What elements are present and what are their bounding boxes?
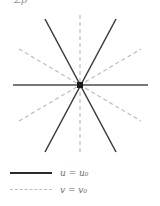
origin-marker <box>77 82 83 88</box>
legend-swatch-solid-icon <box>10 172 52 174</box>
plot-area <box>0 0 160 165</box>
figure-canvas: Σρ u = u₀ v = v₀ <box>0 0 160 206</box>
legend-item-u: u = u₀ <box>10 166 160 180</box>
legend-swatch-dashed-icon <box>10 189 52 190</box>
legend-label-u: u = u₀ <box>60 166 88 180</box>
legend-item-v: v = v₀ <box>10 183 160 197</box>
legend: u = u₀ v = v₀ <box>0 164 160 206</box>
legend-label-v: v = v₀ <box>60 183 87 197</box>
